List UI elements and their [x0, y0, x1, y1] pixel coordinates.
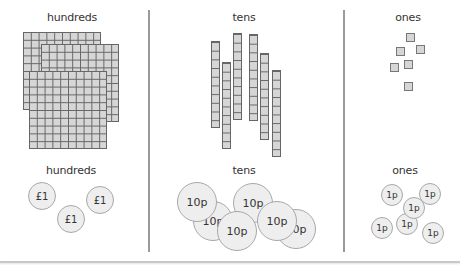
tens-blocks-label: tens: [233, 11, 256, 24]
ten-rod-block: [272, 70, 281, 157]
tens-coins-label: tens: [233, 164, 256, 177]
one-cube-block: [404, 82, 413, 91]
one-pence-coin: 1p: [422, 222, 444, 244]
hundreds-blocks-label: hundreds: [47, 11, 97, 24]
one-cube-block: [416, 45, 425, 54]
ten-pence-coin: 10p: [217, 211, 257, 251]
ones-coins-label: ones: [392, 164, 417, 177]
hundreds-coins-label: hundreds: [46, 164, 96, 177]
one-cube-block: [406, 33, 415, 42]
ones-blocks-label: ones: [395, 11, 420, 24]
hundred-flat-block: [29, 71, 107, 149]
one-cube-block: [396, 47, 405, 56]
ten-rod-block: [211, 41, 220, 128]
pound-coin: £1: [86, 186, 114, 214]
one-pence-coin: 1p: [403, 197, 425, 219]
one-pence-coin: 1p: [381, 184, 403, 206]
column-divider: [148, 10, 150, 252]
pound-coin: £1: [28, 182, 56, 210]
one-cube-block: [404, 60, 413, 69]
ten-rod-block: [233, 33, 242, 120]
one-cube-block: [390, 63, 399, 72]
pound-coin: £1: [57, 205, 85, 233]
ten-pence-coin: 10p: [177, 182, 217, 222]
ten-pence-coin: 10p: [257, 201, 297, 241]
ten-rod-block: [249, 34, 258, 121]
ten-rod-block: [260, 53, 269, 140]
column-divider: [343, 10, 345, 252]
one-pence-coin: 1p: [371, 217, 393, 239]
bottom-rule: [0, 261, 460, 263]
ten-rod-block: [222, 62, 231, 149]
